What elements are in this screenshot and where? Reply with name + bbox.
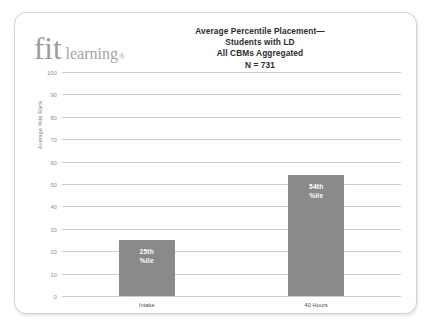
gridline: 90 [62, 94, 401, 95]
y-axis-tick-label: 10 [50, 272, 57, 278]
gridline: 50 [62, 184, 401, 185]
y-axis-tick-label: 40 [50, 204, 57, 210]
y-axis-tick-label: 100 [47, 70, 57, 76]
y-axis-tick-label: 0 [54, 294, 57, 300]
y-axis-tick-label: 80 [50, 115, 57, 121]
y-axis-tick-label: 30 [50, 227, 57, 233]
x-axis-category-label: 40 Hours [305, 302, 329, 308]
gridline: 10 [62, 274, 401, 275]
x-axis-category-label: Intake [139, 302, 155, 308]
bar-value-label-line: 25th [119, 247, 175, 256]
chart-title-line-1: Average Percentile Placement— [145, 26, 375, 37]
gridline: 80 [62, 117, 401, 118]
y-axis-tick-label: 90 [50, 92, 57, 98]
chart-title-line-4: N = 731 [145, 60, 375, 71]
y-axis-tick-label: 50 [50, 182, 57, 188]
bar-value-label-line: %ile [119, 256, 175, 265]
gridline: 40 [62, 206, 401, 207]
gridline: 70 [62, 139, 401, 140]
gridline: 30 [62, 229, 401, 230]
fit-learning-logo: fit learning ® [34, 33, 125, 64]
gridline: 0 [62, 296, 401, 297]
chart-card: fit learning ® Average Percentile Placem… [14, 12, 417, 314]
logo-wordmark: fit [34, 33, 62, 64]
logo-submark: learning [66, 46, 118, 62]
bar-value-label: 25th%ile [119, 247, 175, 265]
y-axis-tick-label: 60 [50, 160, 57, 166]
registered-trademark-icon: ® [119, 52, 125, 61]
y-axis-title: Average %ile Rank [37, 101, 43, 149]
gridline: 20 [62, 251, 401, 252]
bar[interactable]: 25th%ileIntake [119, 240, 175, 296]
gridline: 100 [62, 72, 401, 73]
bar[interactable]: 54th%ile40 Hours [288, 175, 344, 296]
chart-title-line-2: Students with LD [145, 37, 375, 48]
y-axis-tick-label: 70 [50, 137, 57, 143]
bar-value-label: 54th%ile [288, 182, 344, 200]
gridline: 60 [62, 162, 401, 163]
bar-value-label-line: %ile [288, 191, 344, 200]
y-axis-tick-label: 20 [50, 249, 57, 255]
plot-area: 100908070605040302010025th%ileIntake54th… [62, 72, 401, 296]
chart-title: Average Percentile Placement— Students w… [145, 26, 375, 71]
chart-title-line-3: All CBMs Aggregated [145, 48, 375, 59]
bar-value-label-line: 54th [288, 182, 344, 191]
